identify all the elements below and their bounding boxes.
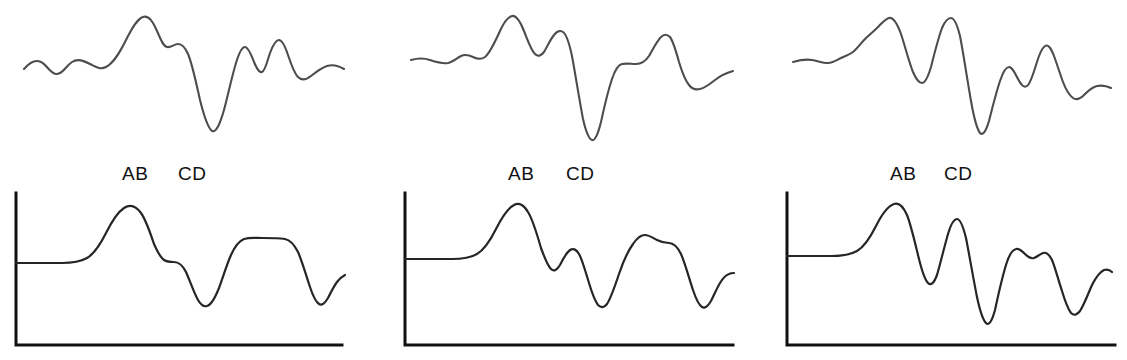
panel-3-bottom-waveform xyxy=(787,203,1112,323)
panel-3-bottom-plot-svg xyxy=(0,0,1127,360)
panel-column-3: AB CD xyxy=(0,0,367,360)
waveform-figure: AB CD AB CD AB CD xyxy=(0,0,1127,360)
panel-3-axes xyxy=(787,193,1115,345)
